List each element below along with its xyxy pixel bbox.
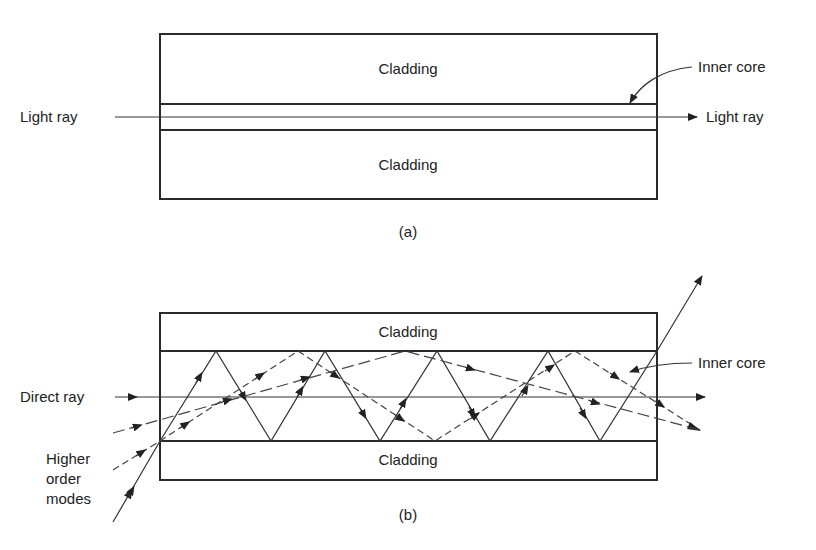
higher-order-label-line2: order bbox=[46, 470, 81, 487]
solid-ray-direction-arrows bbox=[124, 376, 584, 503]
direct-ray-arrowhead bbox=[128, 393, 138, 401]
escaping-ray bbox=[657, 276, 702, 351]
cladding-bottom-label-b: Cladding bbox=[378, 451, 437, 468]
inner-core-label-b: Inner core bbox=[698, 354, 766, 371]
inner-core-pointer-b bbox=[630, 363, 692, 372]
zigzag-ray-dashed-2 bbox=[113, 351, 700, 433]
zigzag-ray-solid bbox=[113, 351, 657, 522]
cladding-bottom-label-a: Cladding bbox=[378, 156, 437, 173]
cladding-top-label-a: Cladding bbox=[378, 60, 437, 77]
light-ray-output-label: Light ray bbox=[706, 108, 764, 125]
caption-a: (a) bbox=[399, 223, 417, 240]
inner-core-label-a: Inner core bbox=[698, 58, 766, 75]
caption-b: (b) bbox=[399, 506, 417, 523]
diagram-a: Cladding Cladding Light ray Light ray In… bbox=[20, 34, 766, 240]
direct-ray-label: Direct ray bbox=[20, 388, 85, 405]
higher-order-label-line1: Higher bbox=[46, 450, 90, 467]
light-ray-input-label: Light ray bbox=[20, 108, 78, 125]
inner-core-pointer-a bbox=[630, 67, 692, 103]
diagram-b: Cladding Cladding Direct ray bbox=[20, 276, 766, 523]
higher-order-label-line3: modes bbox=[46, 490, 91, 507]
fiber-optic-diagram: Cladding Cladding Light ray Light ray In… bbox=[0, 0, 816, 550]
cladding-top-label-b: Cladding bbox=[378, 323, 437, 340]
